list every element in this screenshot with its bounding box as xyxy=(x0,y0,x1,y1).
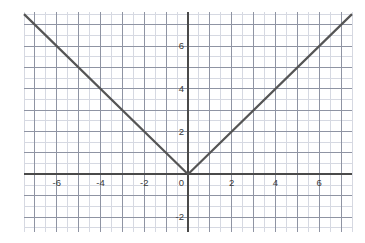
x-tick-label--4: -4 xyxy=(96,178,104,188)
x-tick-label--2: -2 xyxy=(140,178,148,188)
axes xyxy=(24,12,352,232)
x-tick-label-6: 6 xyxy=(317,178,322,188)
y-tick-label-2: 2 xyxy=(179,127,184,137)
graph-canvas xyxy=(0,0,365,243)
x-tick-label--6: -6 xyxy=(53,178,61,188)
y-tick-label--2: -2 xyxy=(176,212,184,222)
y-tick-label-4: 4 xyxy=(179,84,184,94)
absolute-value-graph-figure: -6-4-2246642-20 xyxy=(0,0,365,243)
y-tick-label-6: 6 xyxy=(179,41,184,51)
origin-label: 0 xyxy=(179,179,184,189)
x-tick-label-2: 2 xyxy=(229,178,234,188)
x-tick-label-4: 4 xyxy=(273,178,278,188)
